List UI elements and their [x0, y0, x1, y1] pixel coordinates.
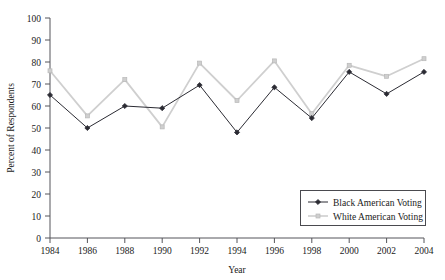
data-point	[422, 57, 426, 61]
data-point	[198, 61, 202, 65]
y-tick-label-100: 100	[27, 14, 42, 24]
data-point	[160, 125, 164, 129]
y-tick-label-20: 20	[32, 190, 42, 200]
y-tick-label-40: 40	[32, 146, 42, 156]
x-tick-label-1994: 1994	[228, 246, 247, 256]
x-tick-label-1996: 1996	[265, 246, 284, 256]
y-tick-label-0: 0	[36, 234, 41, 244]
y-tick-label-30: 30	[32, 168, 42, 178]
x-tick-label-1990: 1990	[153, 246, 172, 256]
legend-marker-glyph	[316, 214, 320, 218]
x-tick-label-2002: 2002	[377, 246, 396, 256]
data-point	[347, 63, 351, 67]
legend-label-black-american-voting: Black American Voting	[333, 198, 422, 208]
x-tick-label-1988: 1988	[115, 246, 134, 256]
x-tick-label-1984: 1984	[41, 246, 60, 256]
data-point	[272, 59, 276, 63]
y-tick-label-10: 10	[32, 212, 42, 222]
y-axis-title: Percent of Respondents	[6, 83, 16, 173]
data-point	[385, 74, 389, 78]
x-tick-label-2000: 2000	[340, 246, 359, 256]
chart-figure: 100 90 80 70 60 50 40 30 20 10 0	[0, 0, 445, 280]
x-tick-label-1986: 1986	[78, 246, 97, 256]
x-axis-title: Year	[228, 265, 246, 275]
y-tick-label-60: 60	[32, 102, 42, 112]
line-chart: 100 90 80 70 60 50 40 30 20 10 0	[0, 0, 445, 280]
y-tick-label-80: 80	[32, 58, 42, 68]
x-tick-label-1992: 1992	[190, 246, 209, 256]
legend-label-white-american-voting: White American Voting	[333, 212, 423, 222]
data-point	[235, 99, 239, 103]
x-tick-label-1998: 1998	[302, 246, 321, 256]
data-point	[48, 69, 52, 73]
y-tick-label-90: 90	[32, 36, 42, 46]
data-point	[85, 114, 89, 118]
chart-legend: Black American Voting White American Vot…	[301, 191, 426, 226]
x-tick-label-2004: 2004	[415, 246, 434, 256]
y-tick-label-50: 50	[32, 124, 42, 134]
y-tick-label-70: 70	[32, 80, 42, 90]
data-point	[123, 78, 127, 82]
